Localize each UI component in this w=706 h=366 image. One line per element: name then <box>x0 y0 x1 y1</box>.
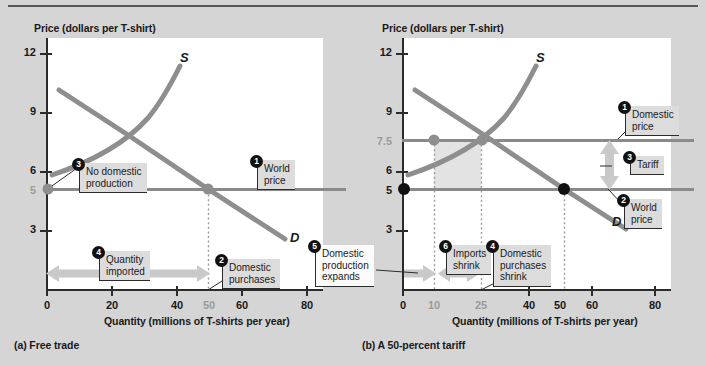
callout-line: No domestic <box>86 166 142 178</box>
callout-line: purchases <box>229 274 275 286</box>
callout-domestic-production-expands: Domestic production expands <box>315 245 374 287</box>
callout-world-price-a: World price <box>257 160 295 190</box>
callout-line: Tariff <box>637 159 659 171</box>
callout-bullet-2-b: 2 <box>617 194 630 207</box>
callout-line: World <box>264 163 290 175</box>
callout-line: Imports <box>453 248 486 260</box>
domestic-production-arrow-b <box>404 265 436 282</box>
panel-tariff: Price (dollars per T-shirt) 12 9 7.5 6 5… <box>356 18 696 358</box>
callout-line: purchases <box>500 260 546 272</box>
x-axis-title-a: Quantity (millions of T-shirts per year) <box>104 315 290 327</box>
callout-bullet-1-a: 1 <box>250 155 263 168</box>
callout-world-price-b: World price <box>624 199 662 229</box>
callout-domestic-price-b: Domestic price <box>625 106 679 136</box>
marker-domestic-purchases-a <box>203 184 214 195</box>
callout-line: expands <box>322 271 369 283</box>
panel-caption-a: (a) Free trade <box>14 339 79 351</box>
svg-overlay-b <box>356 18 696 358</box>
callout-bullet-3-b: 3 <box>623 151 636 164</box>
marker-domestic-production-b <box>429 135 440 146</box>
callout-bullet-5-b: 5 <box>308 240 321 253</box>
marker-freetrade-production-b <box>398 183 410 195</box>
panel-free-trade: Price (dollars per T-shirt) 12 9 6 3 5 0… <box>8 18 348 358</box>
callout-domestic-purchases-shrink: Domestic purchases shrink <box>493 245 551 287</box>
callout-line: World <box>631 202 657 214</box>
supply-label-b: S <box>536 50 545 65</box>
callout-bullet-3-a: 3 <box>72 158 85 171</box>
callout-line: price <box>631 214 657 226</box>
callout-no-domestic-production: No domestic production <box>79 163 147 193</box>
callout-line: price <box>632 121 674 133</box>
svg-overlay-a <box>8 18 348 358</box>
callout-line: Domestic <box>632 109 674 121</box>
callout-line: Domestic <box>500 248 546 260</box>
callout-bullet-2-a: 2 <box>215 254 228 267</box>
figure-root: Price (dollars per T-shirt) 12 9 6 3 5 0… <box>0 0 706 366</box>
marker-no-production-a <box>43 184 54 195</box>
callout-line: Domestic <box>322 248 369 260</box>
callout-line: production <box>86 178 142 190</box>
demand-label-b: D <box>612 214 621 229</box>
callout-domestic-purchases: Domestic purchases <box>222 259 280 289</box>
callout-bullet-1-b: 1 <box>618 101 631 114</box>
callout-line: Domestic <box>229 262 275 274</box>
callout-line: shrink <box>500 271 546 283</box>
marker-domestic-purchases-b <box>477 135 488 146</box>
callout-bullet-6-b: 6 <box>439 240 452 253</box>
panel-caption-b: (b) A 50-percent tariff <box>362 339 465 351</box>
demand-label-a: D <box>290 230 299 245</box>
callout-bullet-4-a: 4 <box>92 246 105 259</box>
callout-bullet-4-b: 4 <box>486 240 499 253</box>
marker-freetrade-purchases-b <box>558 183 570 195</box>
callout-line: price <box>264 175 290 187</box>
callout-line: shrink <box>453 260 486 272</box>
callout-quantity-imported: Quantity imported <box>99 251 150 281</box>
top-rule <box>8 5 698 7</box>
callout-line: production <box>322 260 369 272</box>
tariff-arrow-b <box>600 140 619 190</box>
callout-line: Quantity <box>106 254 145 266</box>
supply-label-a: S <box>180 50 189 65</box>
x-axis-title-b: Quantity (millions of T-shirts per year) <box>452 315 638 327</box>
callout-imports-shrink: Imports shrink <box>446 245 491 275</box>
callout-line: imported <box>106 266 145 278</box>
